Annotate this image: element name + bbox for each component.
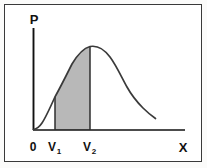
tick-label-origin: 0 <box>30 140 37 154</box>
x-axis-label: X <box>179 140 188 155</box>
tick-label-v2: V <box>83 140 91 154</box>
tick-label-v1-subscript: 1 <box>57 147 62 156</box>
distribution-curve <box>34 46 156 129</box>
tick-label-v1: V <box>48 140 56 154</box>
figure-root: P X 0 V 1 V 2 <box>0 0 207 168</box>
y-axis-label: P <box>30 12 39 27</box>
tick-label-v2-subscript: 2 <box>92 147 97 156</box>
distribution-chart: P X 0 V 1 V 2 <box>0 0 207 168</box>
